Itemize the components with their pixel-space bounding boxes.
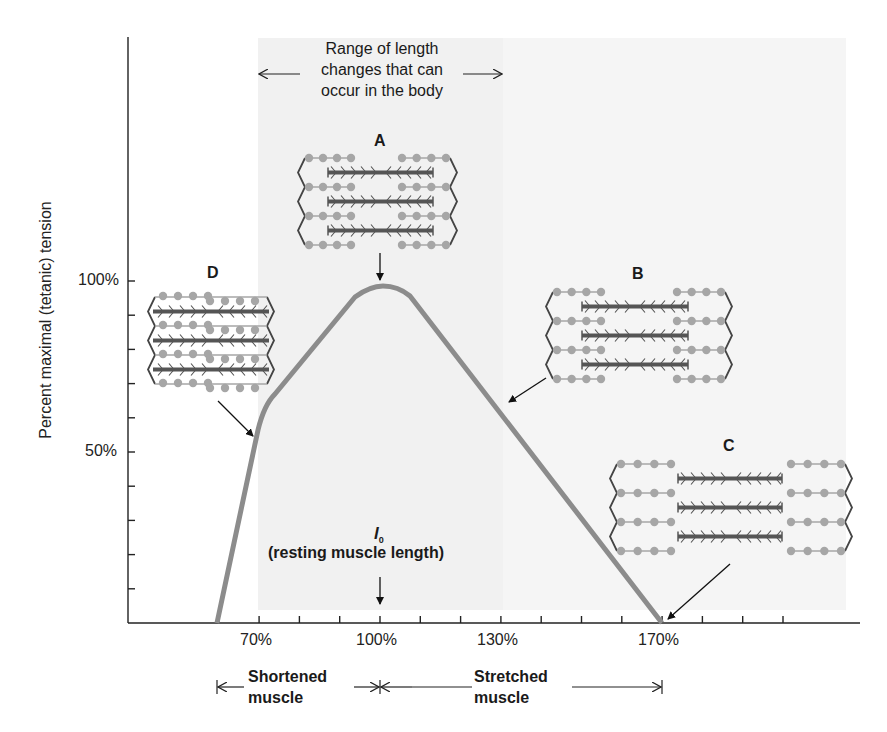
y-tick-label-50: 50% <box>85 442 117 460</box>
chart-canvas <box>0 0 887 732</box>
length-tension-figure: Percent maximal (tetanic) tension 100% 5… <box>0 0 887 732</box>
label-b: B <box>632 265 644 283</box>
label-d: D <box>207 264 219 282</box>
range-annotation: Range of length changes that can occur i… <box>301 38 463 101</box>
x-tick-label-70: 70% <box>240 631 272 649</box>
x-tick-label-170: 170% <box>638 631 679 649</box>
shortened-muscle-label: Shortened muscle <box>248 666 327 708</box>
range-line-1: Range of length <box>301 38 463 59</box>
sarcomere-diagram-d <box>148 292 274 392</box>
x-tick-label-130: 130% <box>477 631 518 649</box>
stretched-muscle-label: Stretched muscle <box>474 666 548 708</box>
y-tick-label-100: 100% <box>78 271 119 289</box>
resting-length-label: (resting muscle length) <box>268 544 444 562</box>
x-tick-label-100: 100% <box>356 631 397 649</box>
l0-label: l0 <box>374 524 384 545</box>
label-a: A <box>374 132 386 150</box>
label-c: C <box>723 437 735 455</box>
range-line-2: changes that can <box>301 59 463 80</box>
y-axis-title: Percent maximal (tetanic) tension <box>37 201 55 438</box>
arrow-d <box>218 401 253 436</box>
range-line-3: occur in the body <box>301 80 463 101</box>
